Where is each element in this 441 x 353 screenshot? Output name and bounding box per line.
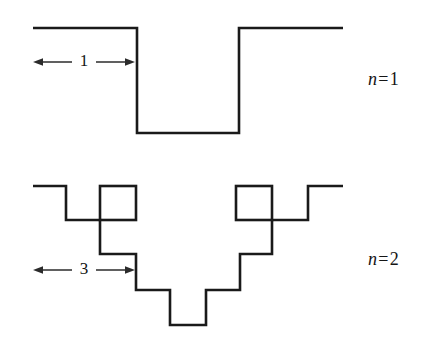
panel-n1: 1 (33, 28, 343, 133)
dimension-arrowhead-left-n2 (33, 266, 43, 274)
dimension-arrowhead-left-n1 (33, 58, 43, 66)
iteration-variable-n2: n (368, 249, 377, 269)
dimension-label-n1: 1 (80, 51, 89, 70)
dimension-arrowhead-right-n1 (125, 58, 135, 66)
dimension-arrow-n1: 1 (33, 50, 135, 74)
curve-n2 (33, 186, 343, 325)
step-curve-figure: 1 3 (0, 0, 441, 353)
dimension-arrowhead-right-n2 (125, 266, 135, 274)
iteration-equals-n1: = (377, 69, 389, 89)
iteration-value-n2: 2 (390, 249, 399, 269)
overlay-square-left-n2 (100, 186, 136, 220)
panel-n2: 3 (33, 186, 343, 325)
dimension-label-n2: 3 (80, 259, 89, 278)
iteration-variable-n1: n (368, 69, 377, 89)
iteration-value-n1: 1 (390, 69, 399, 89)
iteration-label-n2: n=2 (368, 249, 399, 270)
curve-n1 (33, 28, 343, 133)
iteration-label-n1: n=1 (368, 69, 399, 90)
dimension-arrow-n2: 3 (33, 258, 135, 282)
overlay-square-right-n2 (236, 186, 272, 220)
iteration-equals-n2: = (377, 249, 389, 269)
figure-root: 1 3 n=1 n=2 (0, 0, 441, 353)
